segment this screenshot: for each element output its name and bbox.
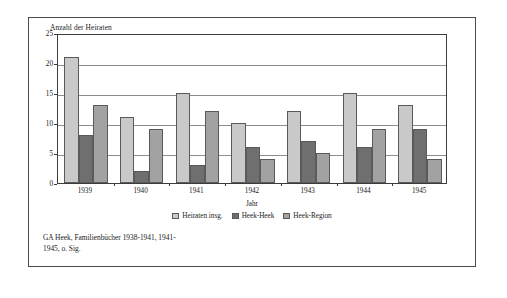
x-axis-tick-mark [225,183,226,186]
chart-legend: Heiraten insg.Heek-HeekHeek-Region [57,212,447,220]
bar [413,129,428,183]
bar-group [169,35,225,183]
bar [398,105,413,183]
x-axis-tick-label: 1940 [133,187,147,195]
x-axis-tick-label: 1945 [412,187,426,195]
y-axis-tick-mark [54,184,57,185]
bar [64,57,79,183]
x-axis-tick-mark [392,183,393,186]
bar [93,105,108,183]
y-axis-tick-label: 20 [46,60,53,68]
y-axis-title: Anzahl der Heiraten [50,23,112,32]
y-axis-tick-label: 10 [46,120,53,128]
x-axis-tick-mark [281,183,282,186]
x-axis-tick-mark [114,183,115,186]
bar-group [225,35,281,183]
bar [205,111,220,183]
x-axis-tick-label: 1943 [301,187,315,195]
bar [301,141,316,183]
plot-area [57,34,447,184]
bar [134,171,149,183]
bars-layer [58,35,446,183]
caption-line-2: 1945, o. Sig. [43,244,343,255]
legend-swatch-icon [172,213,179,219]
legend-item: Heek-Region [283,212,331,220]
bar-group [392,35,448,183]
legend-item: Heek-Heek [232,212,275,220]
y-axis-tick-label: 5 [49,150,53,158]
bar [176,93,191,183]
legend-item: Heiraten insg. [172,212,222,220]
y-axis-tick-label: 0 [49,180,53,188]
bar [316,153,331,183]
x-axis-title: Jahr [57,200,447,208]
x-axis-tick-label: 1941 [189,187,203,195]
bar [427,159,442,183]
legend-swatch-icon [283,213,290,219]
figure-frame: Anzahl der Heiraten 0510152025 193919401… [28,17,476,267]
bar [287,111,302,183]
legend-swatch-icon [232,213,239,219]
y-axis-tick-label: 15 [46,90,53,98]
y-axis-tick-labels: 0510152025 [29,34,53,184]
bar-chart: Anzahl der Heiraten 0510152025 193919401… [29,18,477,223]
bar-group [337,35,393,183]
bar [343,93,358,183]
bar [149,129,164,183]
legend-label: Heiraten insg. [182,212,222,220]
bar [231,123,246,183]
figure-caption: GA Heek, Familienbücher 1938-1941, 1941-… [43,233,343,254]
bar [357,147,372,183]
legend-label: Heek-Region [293,212,331,220]
bar [246,147,261,183]
x-axis-tick-mark [337,183,338,186]
bar-group [281,35,337,183]
caption-line-1: GA Heek, Familienbücher 1938-1941, 1941- [43,233,343,244]
bar [190,165,205,183]
x-axis-tick-label: 1942 [245,187,259,195]
bar [120,117,135,183]
y-axis-tick-label: 25 [46,30,53,38]
x-axis-tick-mark [169,183,170,186]
x-axis-tick-labels: 1939194019411942194319441945 [57,187,447,199]
bar-group [114,35,170,183]
bar-group [58,35,114,183]
x-axis-tick-label: 1944 [356,187,370,195]
bar [260,159,275,183]
bar [79,135,94,183]
x-axis-tick-label: 1939 [78,187,92,195]
legend-label: Heek-Heek [242,212,275,220]
bar [372,129,387,183]
